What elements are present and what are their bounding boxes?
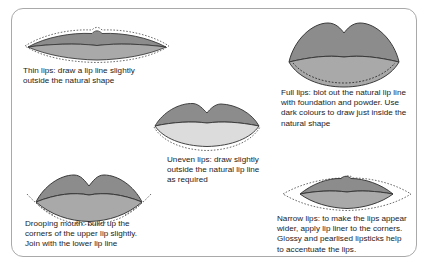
drooping-mouth-lower [36,194,142,222]
thin-lips-lower [28,44,166,60]
caption-full-lips: Full lips: blot out the natural lip line… [281,88,431,129]
caption-drooping-mouth: Drooping mouth: build up the corners of … [25,219,185,250]
uneven-lips-lower [155,122,259,147]
figure-uneven-lips [152,100,262,152]
diagram-page: Thin lips: draw a lip line slightly outs… [0,0,431,273]
narrow-lips-upper [300,176,393,194]
caption-thin-lips: Thin lips: draw a lip line slightly outs… [23,66,198,86]
caption-narrow-lips: Narrow lips: to make the lips appear wid… [277,214,429,255]
caption-uneven-lips: Uneven lips: draw slightly outside the n… [167,155,297,186]
narrow-lips-lower [300,191,393,209]
figure-thin-lips [22,24,172,66]
narrow-lips-illustration [280,173,414,215]
uneven-lips-illustration [152,100,262,152]
full-lips-upper [289,23,399,62]
thin-lips-illustration [22,24,172,66]
figure-narrow-lips [280,173,414,215]
full-lips-lower [289,56,399,87]
figure-full-lips [286,20,402,90]
full-lips-illustration [286,20,402,90]
